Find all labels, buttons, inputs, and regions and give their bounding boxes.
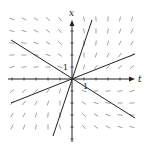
slope-mark xyxy=(119,17,120,22)
slope-mark xyxy=(34,18,38,21)
slope-mark xyxy=(107,53,109,57)
slope-mark xyxy=(108,29,109,34)
slope-mark xyxy=(130,90,135,91)
slope-mark xyxy=(94,114,98,116)
slope-mark xyxy=(58,29,61,33)
slope-mark xyxy=(107,41,109,46)
slope-mark xyxy=(10,66,15,67)
slope-mark xyxy=(46,54,51,56)
slope-mark xyxy=(34,42,39,44)
slope-mark xyxy=(96,41,97,46)
slope-mark xyxy=(94,102,99,104)
slope-mark xyxy=(22,89,26,92)
slope-mark xyxy=(22,18,27,20)
slope-mark xyxy=(47,101,49,106)
solution-lines xyxy=(11,20,135,136)
slope-mark xyxy=(47,89,50,93)
slope-mark xyxy=(106,126,110,128)
x-axis-label: x xyxy=(69,8,74,18)
slope-mark xyxy=(58,17,61,21)
slope-mark xyxy=(119,29,121,34)
slope-mark xyxy=(95,53,97,58)
slope-mark xyxy=(10,18,15,20)
slope-mark xyxy=(10,30,15,31)
slope-mark xyxy=(131,29,133,34)
slope-mark xyxy=(58,66,63,68)
slope-mark xyxy=(46,42,50,44)
slope-mark xyxy=(46,29,50,32)
slope-mark xyxy=(131,41,134,45)
slope-mark xyxy=(23,101,26,105)
slope-mark xyxy=(94,126,98,129)
slope-mark xyxy=(118,53,121,57)
slope-mark xyxy=(82,102,86,105)
t-axis-label: t xyxy=(138,74,142,84)
slope-mark xyxy=(23,113,25,117)
x-axis-arrow-icon xyxy=(70,20,75,26)
slope-mark xyxy=(48,113,49,118)
slope-mark xyxy=(106,103,111,104)
slope-mark xyxy=(10,89,14,92)
slope-mark xyxy=(59,125,60,130)
slope-mark xyxy=(118,90,123,91)
slope-mark xyxy=(119,41,121,45)
slope-mark xyxy=(58,53,62,56)
t-axis-arrow-icon xyxy=(129,77,135,82)
slope-mark xyxy=(118,126,123,128)
slope-mark xyxy=(35,101,37,105)
direction-field-diagram: t x 1 1 xyxy=(0,0,147,144)
slope-mark xyxy=(34,30,38,32)
slope-mark xyxy=(22,66,27,67)
t-tick-label-1: 1 xyxy=(83,82,88,91)
slope-mark xyxy=(35,113,37,118)
slope-mark xyxy=(82,125,85,129)
slope-mark xyxy=(83,29,84,34)
slope-mark xyxy=(106,114,111,116)
slope-mark xyxy=(130,65,134,68)
slope-mark xyxy=(106,91,111,92)
slope-mark xyxy=(83,17,84,22)
slope-mark xyxy=(83,65,85,70)
slope-mark xyxy=(58,41,62,45)
slope-mark xyxy=(106,65,110,69)
slope-mark xyxy=(46,17,50,20)
axis-ticks xyxy=(12,31,120,139)
slope-mark xyxy=(82,113,86,117)
slope-mark xyxy=(11,125,13,130)
slope-mark xyxy=(22,43,27,44)
slope-mark xyxy=(11,113,14,117)
x-tick-label-1: 1 xyxy=(63,63,68,72)
slope-mark xyxy=(36,125,37,130)
slope-mark xyxy=(130,126,135,127)
slope-mark xyxy=(131,17,133,22)
slope-mark xyxy=(94,65,97,69)
slope-mark xyxy=(118,65,122,68)
slope-mark xyxy=(59,89,61,94)
slope-mark xyxy=(34,67,39,68)
slope-mark xyxy=(118,115,123,116)
slope-mark xyxy=(23,125,25,130)
slope-mark xyxy=(22,30,27,32)
